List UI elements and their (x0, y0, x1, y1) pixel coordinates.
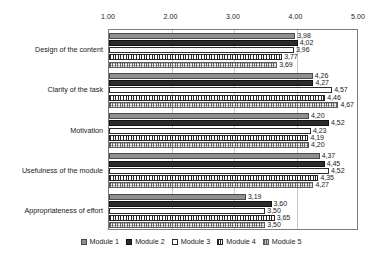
legend-label: Module 3 (181, 237, 211, 246)
bar-value-label: 3,65 (275, 214, 291, 221)
bar-chart: 1.002.003.004.005.00 Design of the conte… (0, 0, 382, 255)
x-tick-label: 1.00 (101, 13, 115, 20)
legend-swatch-icon (263, 239, 269, 245)
bar-value-label: 4,52 (329, 119, 345, 126)
legend-swatch-icon (217, 239, 223, 245)
bar-value-label: 4,26 (313, 71, 329, 78)
bar-value-label: 4,67 (338, 100, 354, 107)
x-tick-label: 5.00 (351, 13, 365, 20)
bar-value-label: 4,02 (298, 38, 314, 45)
category-label: Usefulness of the module (0, 165, 103, 174)
legend-item[interactable]: Module 4 (217, 237, 256, 246)
category-label: Appropriateness of effort (0, 205, 103, 214)
bar-value-label: 4,20 (309, 112, 325, 119)
bar-value-label: 3,96 (294, 46, 310, 53)
category-label: Motivation (0, 125, 103, 134)
bar-value-label: 4,46 (325, 93, 341, 100)
legend-swatch-icon (126, 239, 132, 245)
category-axis-labels: Design of the contentClarity of the task… (0, 29, 106, 230)
bar-value-label: 4,37 (320, 152, 336, 159)
legend-item[interactable]: Module 3 (172, 237, 211, 246)
legend-swatch-icon (172, 239, 178, 245)
legend-swatch-icon (81, 239, 87, 245)
bar-value-label: 4,35 (318, 173, 334, 180)
bar-value-label: 3,77 (282, 53, 298, 60)
bar-value-label: 3,50 (265, 206, 281, 213)
bar-value-label: 3,60 (272, 199, 288, 206)
bar-value-label: 4,27 (313, 181, 329, 188)
bar-value-label: 4,23 (311, 126, 327, 133)
x-tick-label: 4.00 (288, 13, 302, 20)
legend-item[interactable]: Module 5 (263, 237, 302, 246)
x-axis-tick-labels: 1.002.003.004.005.00 (0, 13, 382, 25)
legend-item[interactable]: Module 1 (81, 237, 120, 246)
bar-value-label: 4,57 (332, 86, 348, 93)
bar-value-label: 4,45 (325, 159, 341, 166)
category-label: Design of the content (0, 45, 103, 54)
x-tick-label: 3.00 (226, 13, 240, 20)
chart-legend: Module 1Module 2Module 3Module 4Module 5 (0, 237, 382, 246)
bar-value-label: 3,69 (277, 60, 293, 67)
bar-value-label: 3,19 (246, 192, 262, 199)
bar-value-label: 4,52 (329, 166, 345, 173)
bar-value-label: 4,20 (309, 140, 325, 147)
legend-label: Module 5 (272, 237, 302, 246)
legend-item[interactable]: Module 2 (126, 237, 165, 246)
bar-value-label: 4,19 (308, 133, 324, 140)
bar-value-label: 4,27 (313, 79, 329, 86)
bar-value-label: 3,50 (265, 221, 281, 228)
legend-label: Module 2 (135, 237, 165, 246)
legend-label: Module 4 (226, 237, 256, 246)
legend-label: Module 1 (90, 237, 120, 246)
bar-value-label: 3,98 (295, 31, 311, 38)
x-tick-label: 2.00 (163, 13, 177, 20)
bar-value-labels-layer: 3,984,023,963,773,694,264,274,574,464,67… (108, 29, 382, 230)
category-label: Clarity of the task (0, 85, 103, 94)
